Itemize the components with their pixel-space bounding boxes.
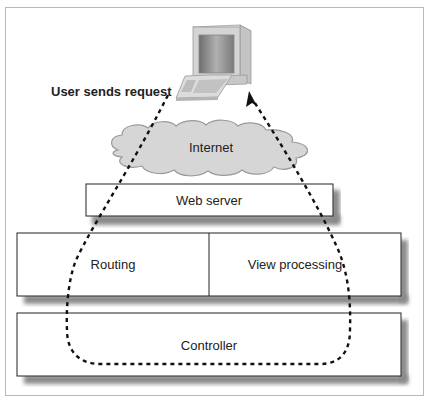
routing-view-box: Routing View processing: [17, 233, 408, 304]
web-server-label: Web server: [176, 193, 243, 208]
web-server-box: Web server: [86, 184, 340, 225]
internet-cloud: Internet: [112, 120, 308, 176]
diagram-canvas: User sends request Internet Web server R…: [0, 0, 429, 403]
controller-box: Controller: [17, 313, 408, 384]
view-processing-label: View processing: [248, 257, 342, 272]
controller-label: Controller: [181, 338, 238, 353]
arrowhead-icon: [246, 91, 257, 107]
routing-label: Routing: [91, 257, 136, 272]
user-sends-request-label: User sends request: [51, 84, 172, 99]
internet-label: Internet: [189, 140, 233, 155]
desktop-computer-icon: [176, 25, 251, 101]
